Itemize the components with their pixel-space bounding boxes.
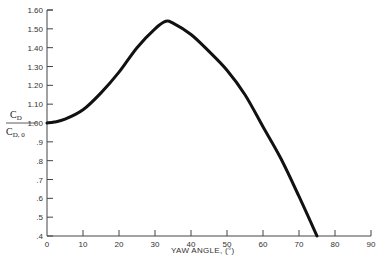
y-tick-label: 1.30 (27, 63, 43, 72)
x-tick-label: 20 (115, 240, 124, 249)
y-tick-label: 1.50 (27, 25, 43, 34)
y-label-denominator: CD, 0 (6, 126, 25, 139)
data-curve (47, 21, 317, 236)
y-tick-label: 1.20 (27, 81, 43, 90)
axes (47, 10, 371, 236)
y-tick-label: 1.60 (27, 6, 43, 15)
x-tick-label: 10 (79, 240, 88, 249)
x-axis-title: YAW ANGLE, (°) (171, 246, 234, 255)
x-tick-label: 60 (259, 240, 268, 249)
x-tick-label: 0 (45, 240, 50, 249)
y-tick-label: .7 (36, 176, 43, 185)
y-tick-label: 1.40 (27, 44, 43, 53)
x-tick-label: 80 (331, 240, 340, 249)
x-tick-label: 70 (295, 240, 304, 249)
y-tick-label: .4 (36, 232, 43, 241)
chart: .4.5.6.7.8.91.001.101.201.301.401.501.60… (0, 0, 383, 265)
y-label-numerator: CD (10, 109, 22, 122)
y-tick-label: .9 (36, 138, 43, 147)
y-tick-label: .8 (36, 157, 43, 166)
y-tick-label: .5 (36, 213, 43, 222)
y-tick-label: .6 (36, 194, 43, 203)
y-tick-label: 1.00 (27, 119, 43, 128)
x-tick-label: 90 (367, 240, 376, 249)
y-tick-label: 1.10 (27, 100, 43, 109)
x-tick-label: 30 (151, 240, 160, 249)
